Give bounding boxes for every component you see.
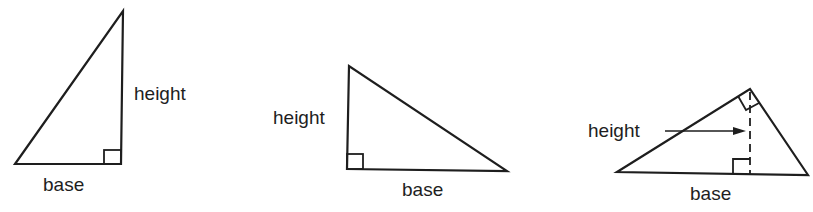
height-arrow-head (733, 127, 746, 135)
base-right-angle-marker (733, 159, 750, 173)
base-label-2: base (402, 180, 443, 199)
base-label-3: base (690, 184, 731, 203)
right-angle-marker-2 (347, 154, 363, 169)
right-angle-marker-1 (104, 150, 121, 164)
height-label-1: height (134, 84, 186, 103)
triangle-1 (15, 11, 123, 164)
triangle-3 (617, 89, 808, 175)
triangle-2 (347, 66, 507, 171)
base-label-1: base (43, 175, 84, 194)
height-label-2: height (273, 108, 325, 127)
height-label-3: height (588, 121, 640, 140)
